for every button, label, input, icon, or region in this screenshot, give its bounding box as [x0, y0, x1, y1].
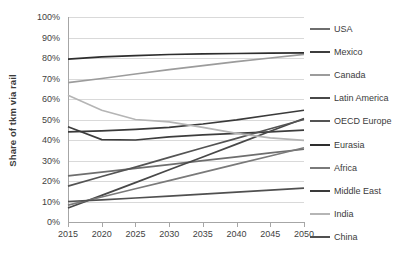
x-axis-tick — [169, 222, 170, 227]
x-axis-tick-labels: 20152020202520302035204020452050 — [40, 229, 330, 245]
y-axis-title: Share of tkm via rail — [0, 0, 24, 240]
legend-item-africa[interactable]: Africa — [310, 161, 357, 175]
legend-swatch-icon — [310, 97, 330, 99]
y-axis-tick-labels: 100%90%80%70%60%50%40%30%20%10%0% — [24, 11, 64, 227]
legend-item-india[interactable]: India — [310, 207, 354, 221]
legend-item-middle-east[interactable]: Middle East — [310, 184, 381, 198]
series-lines — [68, 17, 304, 222]
legend-swatch-icon — [310, 236, 330, 238]
legend-swatch-icon — [310, 51, 330, 53]
legend-swatch-icon — [310, 190, 330, 192]
legend-swatch-icon — [310, 74, 330, 76]
y-axis-tick-label: 0% — [22, 217, 60, 227]
legend-item-canada[interactable]: Canada — [310, 68, 366, 82]
legend-item-latin-america[interactable]: Latin America — [310, 91, 389, 105]
legend-swatch-icon — [310, 120, 330, 122]
legend-label: Canada — [334, 70, 366, 80]
y-axis-tick-label: 20% — [22, 176, 60, 186]
line-chart: Share of tkm via rail 100%90%80%70%60%50… — [0, 0, 419, 266]
legend-label: Africa — [334, 163, 357, 173]
legend-item-eurasia[interactable]: Eurasia — [310, 138, 365, 152]
legend-label: USA — [334, 24, 353, 34]
x-axis-ticks — [68, 222, 304, 228]
y-axis-tick-label: 90% — [22, 33, 60, 43]
y-axis-tick-label: 70% — [22, 74, 60, 84]
y-axis-tick-label: 60% — [22, 94, 60, 104]
legend-item-mexico[interactable]: Mexico — [310, 45, 363, 59]
x-axis-tick — [102, 222, 103, 227]
y-axis-title-text: Share of tkm via rail — [7, 74, 18, 166]
legend-item-china[interactable]: China — [310, 230, 358, 244]
legend-label: OECD Europe — [334, 116, 392, 126]
legend-label: Mexico — [334, 47, 363, 57]
legend-item-usa[interactable]: USA — [310, 22, 353, 36]
legend-swatch-icon — [310, 144, 330, 146]
legend: USAMexicoCanadaLatin AmericaOECD EuropeE… — [310, 22, 419, 252]
legend-label: China — [334, 232, 358, 242]
y-axis-tick-label: 40% — [22, 135, 60, 145]
x-axis-tick — [203, 222, 204, 227]
y-axis-tick-label: 50% — [22, 115, 60, 125]
x-axis-tick — [270, 222, 271, 227]
y-axis-tick-label: 80% — [22, 53, 60, 63]
x-axis-tick — [68, 222, 69, 227]
series-line — [68, 95, 304, 140]
legend-swatch-icon — [310, 167, 330, 169]
series-line — [68, 54, 304, 82]
legend-label: India — [334, 209, 354, 219]
y-axis-tick-label: 30% — [22, 156, 60, 166]
plot-area — [68, 17, 304, 222]
y-axis-tick-label: 100% — [22, 12, 60, 22]
legend-swatch-icon — [310, 28, 330, 30]
y-axis-tick-label: 10% — [22, 197, 60, 207]
x-axis-tick — [135, 222, 136, 227]
x-axis-tick — [304, 222, 305, 227]
legend-label: Eurasia — [334, 140, 365, 150]
x-axis-tick — [237, 222, 238, 227]
legend-label: Latin America — [334, 93, 389, 103]
legend-label: Middle East — [334, 186, 381, 196]
legend-item-oecd-europe[interactable]: OECD Europe — [310, 114, 392, 128]
legend-swatch-icon — [310, 213, 330, 215]
